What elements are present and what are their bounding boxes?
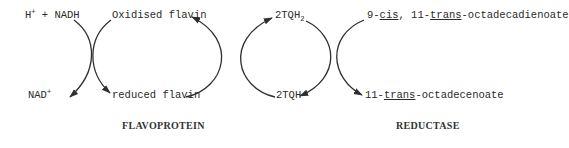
arrow-tqh2-to-tqh xyxy=(300,21,331,96)
diene-part-1: 9- xyxy=(367,9,380,21)
label-2tqh2: 2TQH2 xyxy=(275,9,304,21)
caption-reductase: REDUCTASE xyxy=(396,120,460,131)
label-octadecenoate: 11-trans-octadecenoate xyxy=(365,89,504,101)
diene-part-2: , 11- xyxy=(399,9,431,21)
caption-flavoprotein: FLAVOPROTEIN xyxy=(122,120,205,131)
diene-part-3: -octadecadienoate xyxy=(462,9,569,21)
arrow-tqh-to-tqh2 xyxy=(241,18,275,97)
arrow-nadh-to-nad xyxy=(70,20,92,97)
monoene-trans: trans xyxy=(384,89,416,101)
label-octadecadienoate: 9-cis, 11-trans-octadecadienoate xyxy=(367,9,569,21)
nadh-text: + NADH xyxy=(36,9,80,21)
tqh2-subscript: 2 xyxy=(300,15,304,23)
label-oxidised-flavin: Oxidised flavin xyxy=(112,9,207,21)
monoene-part-2: -octadecenoate xyxy=(415,89,503,101)
arrow-diene-to-monoene xyxy=(337,20,364,95)
nad-charge: + xyxy=(47,88,51,96)
monoene-part-1: 11- xyxy=(365,89,384,101)
arrow-oxflavin-to-redflavin xyxy=(93,20,111,93)
label-reduced-flavin: reduced flavin xyxy=(112,89,200,101)
diene-trans: trans xyxy=(430,9,462,21)
nad-text: NAD xyxy=(28,89,47,101)
tqh2-text: 2TQH xyxy=(275,9,300,21)
diene-cis: cis xyxy=(380,9,399,21)
arrow-redflavin-to-oxflavin xyxy=(186,17,222,97)
label-2tqh: 2TQH xyxy=(276,89,301,101)
label-nad: NAD+ xyxy=(28,89,51,101)
label-h-nadh: H+ + NADH xyxy=(25,9,80,21)
